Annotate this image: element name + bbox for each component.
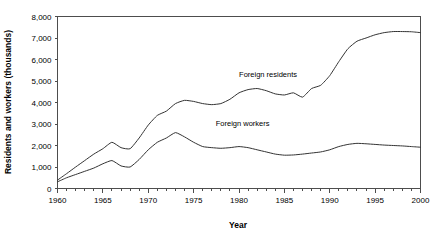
series-annotation: Foreign workers [216, 119, 270, 128]
y-axis-tick-labels: 01,0002,0003,0004,0005,0006,0007,0008,00… [31, 13, 52, 194]
x-tick-label: 2000 [412, 196, 430, 205]
x-tick-label: 1995 [366, 196, 384, 205]
y-tick-label: 0 [47, 185, 52, 194]
x-tick-label: 1970 [139, 196, 157, 205]
series-annotation: Foreign residents [239, 70, 297, 79]
x-tick-label: 1975 [185, 196, 203, 205]
x-axis-title: Year [229, 220, 248, 230]
x-axis-tick-labels: 196019651970197519801985199019952000 [49, 196, 430, 205]
y-tick-label: 7,000 [31, 34, 52, 43]
y-tick-label: 3,000 [31, 120, 52, 129]
y-tick-label: 5,000 [31, 77, 52, 86]
x-tick-label: 1980 [230, 196, 248, 205]
x-tick-label: 1960 [49, 196, 67, 205]
y-tick-label: 2,000 [31, 142, 52, 151]
y-tick-label: 6,000 [31, 56, 52, 65]
x-tick-label: 1985 [275, 196, 293, 205]
y-tick-label: 1,000 [31, 163, 52, 172]
line-chart: 01,0002,0003,0004,0005,0006,0007,0008,00… [0, 0, 439, 234]
chart-container: 01,0002,0003,0004,0005,0006,0007,0008,00… [0, 0, 439, 234]
y-tick-label: 4,000 [31, 99, 52, 108]
y-axis-title: Residents and workers (thousands) [3, 30, 13, 174]
x-tick-label: 1990 [321, 196, 339, 205]
x-tick-label: 1965 [94, 196, 112, 205]
y-tick-label: 8,000 [31, 13, 52, 22]
